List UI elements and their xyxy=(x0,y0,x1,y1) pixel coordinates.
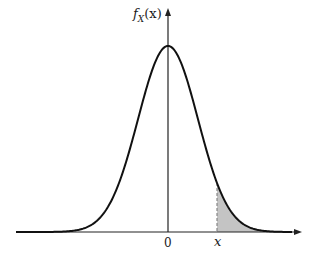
density-figure: fX(x) 0 x xyxy=(0,0,314,259)
threshold-tick-label: x xyxy=(214,234,221,249)
density-curve xyxy=(16,46,292,232)
origin-tick-label: 0 xyxy=(164,236,172,250)
y-axis-label: fX(x) xyxy=(133,6,162,24)
density-plot xyxy=(0,0,314,259)
y-axis-arrow-icon xyxy=(165,8,171,16)
x-axis-arrow-icon xyxy=(294,229,302,235)
y-label-arg: (x) xyxy=(144,6,161,21)
